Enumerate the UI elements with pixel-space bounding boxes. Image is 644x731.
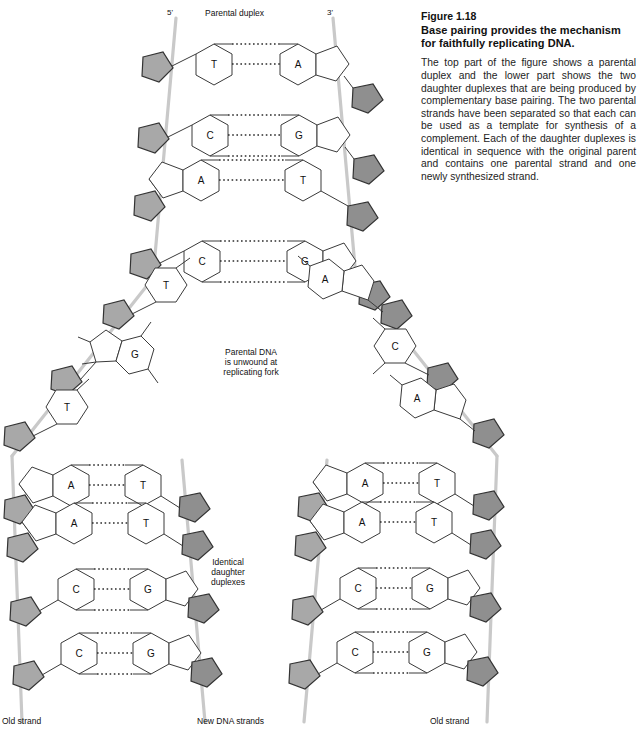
base-pair-daughter-right-4: C G [289, 632, 498, 689]
purine-ring-5 [434, 384, 466, 419]
base-letter-right: T [431, 517, 437, 528]
sugar-pentagon [10, 597, 41, 626]
sugar-pentagon [289, 660, 320, 689]
sugar-pentagon [142, 52, 173, 82]
glycosidic-bond [164, 534, 183, 546]
sugar-pentagon [467, 657, 498, 686]
glycosidic-bond [344, 76, 353, 88]
free-edge [78, 337, 90, 342]
label-identical-daughter-duplexes: Identicaldaughterduplexes [188, 557, 268, 587]
fork-right-nucleotide-1: A [298, 256, 412, 329]
base-letter-right: G [144, 584, 152, 595]
base-pair-daughter-right-3: C G [292, 568, 501, 625]
sugar-pentagon [182, 531, 213, 560]
free-edge [148, 369, 158, 383]
label-three-prime-end: 3' [327, 8, 333, 18]
base-pair-daughter-left-4: C G [13, 633, 222, 690]
glycosidic-bond [168, 125, 192, 137]
base-letter-left: C [198, 256, 205, 267]
caption-body-text: The top part of the figure shows a paren… [421, 57, 636, 183]
free-edge [141, 322, 151, 336]
base-letter-left: A [198, 175, 205, 186]
sugar-pentagon [13, 661, 44, 690]
glycosidic-bond [39, 600, 58, 611]
glycosidic-bond [161, 496, 180, 508]
base-letter-right: G [426, 583, 434, 594]
base-pair-parental-3: A T [134, 160, 378, 231]
label-old-strand-left: Old strand [2, 716, 41, 726]
sugar-pentagon [191, 658, 222, 687]
sugar-pentagon [473, 419, 504, 448]
fork-unwound-left-strand: T G T [4, 258, 190, 451]
caption-figure-number: Figure 1.18 [421, 10, 636, 23]
fork-unwound-right-strand: A C A [298, 256, 504, 448]
sugar-pentagon [292, 596, 323, 625]
base-letter-left: C [351, 647, 358, 658]
label-replicating-fork: Parental DNAis unwound atreplicating for… [205, 347, 297, 377]
base-letter: T [163, 280, 169, 291]
figure-dna-replication: T A C G [0, 0, 644, 731]
base-letter: A [322, 274, 329, 285]
sugar-pentagon [353, 155, 384, 184]
base-pair-daughter-right-2: A T [295, 502, 501, 561]
base-letter: C [391, 341, 398, 352]
fork-left-nucleotide-2: G [51, 322, 158, 395]
sugar-pentagon [470, 593, 501, 622]
base-pair-parental-1: T A [142, 44, 383, 113]
label-new-dna-strands: New DNA strands [197, 716, 264, 726]
glycosidic-bond [132, 302, 156, 314]
base-letter: G [131, 349, 139, 360]
glycosidic-bond [455, 494, 474, 506]
purine-ring-5 [316, 46, 349, 81]
sugar-pentagon [179, 493, 210, 522]
sugar-pentagon [4, 422, 35, 451]
label-parental-duplex: Parental duplex [205, 8, 264, 18]
purine-ring-5 [342, 265, 374, 300]
sugar-pentagon [352, 84, 383, 113]
glycosidic-bond [452, 533, 471, 545]
free-edge [390, 375, 402, 385]
label-five-prime-end: 5' [167, 8, 173, 18]
base-letter-right: G [147, 648, 155, 659]
base-letter: A [414, 393, 421, 404]
base-letter-right: G [423, 647, 431, 658]
daughter-duplex-right: A T A T [289, 463, 504, 689]
base-letter-left: C [206, 130, 213, 141]
sugar-pentagon [473, 491, 504, 520]
base-letter-right: T [140, 480, 146, 491]
base-letter-left: A [362, 478, 369, 489]
base-letter-right: T [143, 518, 149, 529]
base-letter: T [64, 402, 70, 413]
sugar-pentagon [347, 202, 378, 231]
base-letter-left: A [71, 518, 78, 529]
glycosidic-bond [160, 251, 184, 263]
base-letter-left: C [72, 584, 79, 595]
glycosidic-bond [321, 599, 340, 610]
glycosidic-bond [321, 191, 348, 206]
base-letter-right: A [295, 59, 302, 70]
glycosidic-bond [318, 663, 337, 674]
base-letter-right: T [434, 478, 440, 489]
figure-caption: Figure 1.18 Base pairing provides the me… [421, 10, 636, 183]
base-letter-left: C [354, 583, 361, 594]
free-edge [373, 363, 385, 374]
base-letter-left: C [75, 648, 82, 659]
glycosidic-bond [42, 664, 61, 675]
base-letter-left: T [211, 59, 217, 70]
sugar-pentagon [470, 530, 501, 559]
sugar-pentagon [103, 300, 134, 329]
label-old-strand-right: Old strand [430, 716, 469, 726]
base-letter-left: A [68, 480, 75, 491]
sugar-pentagon [381, 300, 412, 329]
base-letter-right: G [295, 130, 303, 141]
sugar-pentagon [188, 594, 219, 623]
glycosidic-bond [172, 54, 196, 66]
caption-title: Base pairing provides the mechanism for … [421, 24, 636, 50]
fork-right-nucleotide-3: A [390, 375, 504, 448]
base-letter-left: A [359, 517, 366, 528]
base-letter-right: T [300, 175, 306, 186]
